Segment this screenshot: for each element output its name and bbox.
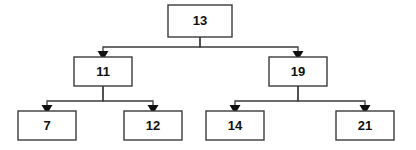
edge-root-left-line bbox=[103, 37, 200, 52]
tree-node-right-right[interactable]: 21 bbox=[336, 111, 394, 140]
tree-node-root[interactable]: 13 bbox=[168, 5, 232, 37]
tree-node-left[interactable]: 11 bbox=[74, 57, 132, 86]
tree-node-right[interactable]: 19 bbox=[269, 57, 327, 86]
edge-right-rightleft-line bbox=[235, 86, 298, 106]
node-label: 12 bbox=[146, 118, 160, 133]
edge-right-rightleft bbox=[230, 86, 299, 114]
edge-root-right-line bbox=[200, 37, 298, 52]
edge-right-rightright-line bbox=[298, 86, 365, 106]
edge-left-leftleft bbox=[42, 86, 104, 114]
binary-tree-diagram: 13 11 19 7 12 14 21 bbox=[0, 0, 416, 150]
edge-left-leftright-line bbox=[103, 86, 153, 106]
tree-node-right-left[interactable]: 14 bbox=[206, 111, 264, 140]
node-label: 19 bbox=[291, 64, 305, 79]
tree-node-left-right[interactable]: 12 bbox=[124, 111, 182, 140]
edge-left-leftright bbox=[103, 86, 159, 114]
edge-left-leftleft-line bbox=[47, 86, 103, 106]
node-label: 7 bbox=[43, 118, 50, 133]
tree-canvas: 13 11 19 7 12 14 21 bbox=[0, 0, 416, 150]
node-label: 21 bbox=[358, 118, 372, 133]
node-label: 11 bbox=[96, 64, 110, 79]
edge-right-rightright bbox=[298, 86, 371, 114]
tree-node-left-left[interactable]: 7 bbox=[18, 111, 76, 140]
node-label: 13 bbox=[193, 13, 207, 28]
node-label: 14 bbox=[228, 118, 243, 133]
